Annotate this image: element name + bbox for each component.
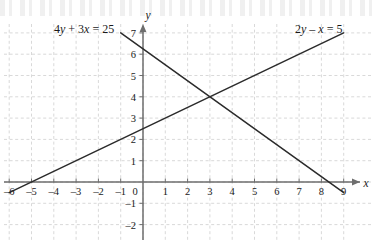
x-tick-label: –4 xyxy=(48,186,60,197)
x-tick-label: 0 xyxy=(132,186,137,197)
y-tick-label: 7 xyxy=(131,28,136,39)
equation-label-left: 4y + 3x = 25 xyxy=(54,22,114,36)
x-tick-label: 3 xyxy=(207,186,212,197)
x-tick-label: –3 xyxy=(70,186,82,197)
coordinate-plane-svg: –6–5–4–3–2–10123456789–2–11234567 x y 4y… xyxy=(0,0,378,246)
x-tick-label: 9 xyxy=(341,186,346,197)
x-tick-label: 8 xyxy=(319,186,324,197)
y-tick-label: 4 xyxy=(131,92,137,103)
x-tick-label: 6 xyxy=(274,186,279,197)
x-tick-label: –5 xyxy=(25,186,37,197)
y-tick-label: 3 xyxy=(131,113,136,124)
x-tick-label: –1 xyxy=(114,186,126,197)
x-tick-label: –6 xyxy=(3,186,15,197)
x-tick-label: 5 xyxy=(252,186,257,197)
x-tick-label: 7 xyxy=(296,186,301,197)
x-axis-label: x xyxy=(362,177,369,189)
data-line-1 xyxy=(121,33,344,193)
y-tick-label: –2 xyxy=(125,220,137,231)
x-tick-label: 4 xyxy=(230,186,236,197)
y-axis-arrowhead xyxy=(140,24,147,32)
y-axis-label: y xyxy=(144,9,151,22)
y-tick-label: 1 xyxy=(131,156,136,167)
x-tick-label: –2 xyxy=(92,186,104,197)
x-tick-label: 2 xyxy=(185,186,190,197)
data-lines xyxy=(9,33,344,193)
x-tick-label: 1 xyxy=(163,186,168,197)
axis-ticks xyxy=(9,33,344,225)
y-tick-label: –1 xyxy=(125,198,137,209)
equation-label-right: 2y – x = 5 xyxy=(295,22,342,36)
x-axis-arrowhead xyxy=(352,179,360,186)
y-tick-label: 6 xyxy=(131,49,136,60)
tick-labels: –6–5–4–3–2–10123456789–2–11234567 xyxy=(3,28,346,231)
y-tick-label: 2 xyxy=(131,134,136,145)
data-line-2 xyxy=(9,33,344,193)
y-tick-label: 5 xyxy=(131,71,136,82)
axes-group xyxy=(4,24,360,240)
grid-lines xyxy=(4,24,372,240)
graph-figure: –6–5–4–3–2–10123456789–2–11234567 x y 4y… xyxy=(0,0,378,246)
